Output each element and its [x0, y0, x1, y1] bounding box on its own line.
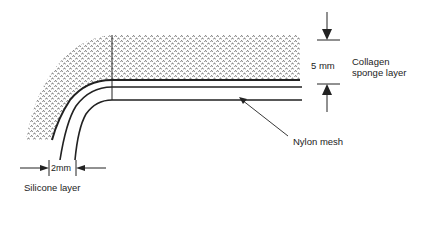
- silicone-label: Silicone layer: [24, 182, 81, 193]
- arrow-right-icon: [40, 165, 49, 171]
- silicone-line-upper: [60, 87, 302, 160]
- nylon-mesh-label: Nylon mesh: [293, 136, 343, 147]
- arrow-down-icon: [322, 29, 332, 40]
- silicone-line-lower: [75, 100, 302, 160]
- width-label: 2mm: [51, 163, 71, 174]
- arrow-left-icon: [76, 165, 85, 171]
- arrow-up-icon: [322, 84, 332, 95]
- thickness-label: 5 mm: [311, 60, 335, 71]
- nylon-leader: [239, 97, 288, 136]
- collagen-label-line2: sponge layer: [352, 67, 406, 78]
- collagen-label-line1: Collagen: [352, 56, 390, 67]
